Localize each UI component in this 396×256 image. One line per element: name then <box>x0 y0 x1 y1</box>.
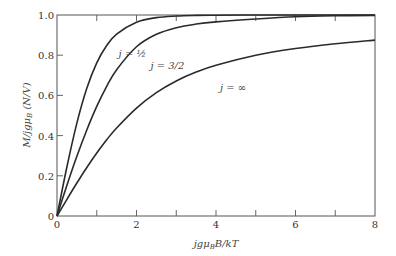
y-tick-label: 0.6 <box>38 90 54 101</box>
axis-ticks: 0246800.20.40.60.81.0 <box>38 10 378 230</box>
curve-label-2: j = ∞ <box>218 82 246 93</box>
y-tick-label: 0.4 <box>38 131 54 142</box>
curve-series-2 <box>57 40 375 216</box>
x-tick-label: 2 <box>133 219 139 230</box>
curve-label-0: j = ½ <box>117 48 147 59</box>
curve-labels: j = ½j = 3/2j = ∞ <box>117 48 247 93</box>
curve-label-1: j = 3/2 <box>148 60 184 71</box>
y-tick-label: 0.2 <box>38 171 54 182</box>
x-tick-label: 8 <box>372 219 378 230</box>
x-axis-label: jgμBB/kT <box>192 238 240 251</box>
curve-series-1 <box>57 15 375 216</box>
x-tick-label: 0 <box>54 219 60 230</box>
brillouin-chart: 0246800.20.40.60.81.0 j = ½j = 3/2j = ∞ … <box>0 0 396 256</box>
y-tick-label: 0 <box>48 211 54 222</box>
x-tick-label: 6 <box>292 219 298 230</box>
curves <box>57 15 375 216</box>
y-tick-label: 1.0 <box>38 10 54 21</box>
y-tick-label: 0.8 <box>38 50 54 61</box>
y-axis-label: M/jgμB (N/V) <box>21 82 34 148</box>
x-tick-label: 4 <box>213 219 219 230</box>
